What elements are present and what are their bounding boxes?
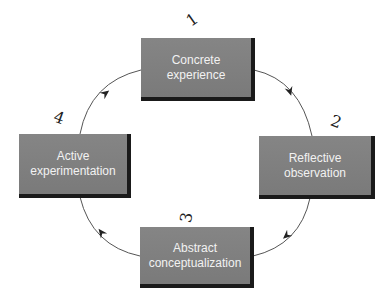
stage-label-line1: Abstract bbox=[173, 241, 217, 256]
stage-label-line1: Active bbox=[57, 149, 90, 164]
stage-label-line1: Reflective bbox=[289, 151, 342, 166]
stage-label-line2: experimentation bbox=[30, 164, 115, 179]
stage-label-line2: experience bbox=[167, 68, 226, 83]
stage-active-experimentation: Active experimentation bbox=[19, 134, 131, 198]
arrow-2-to-3 bbox=[253, 198, 310, 256]
stage-label-line1: Concrete bbox=[172, 53, 221, 68]
arrow-3-to-4 bbox=[80, 197, 140, 256]
stage-abstract-conceptualization: Abstract conceptualization bbox=[140, 227, 254, 288]
arrow-4-to-1 bbox=[80, 70, 141, 134]
stage-label-line2: conceptualization bbox=[149, 256, 242, 271]
learning-cycle-diagram: Concrete experience Reflective observati… bbox=[0, 0, 386, 306]
stage-concrete-experience: Concrete experience bbox=[141, 38, 255, 101]
arrow-1-to-2 bbox=[254, 70, 312, 136]
stage-label-line2: observation bbox=[284, 166, 346, 181]
stage-reflective-observation: Reflective observation bbox=[259, 136, 375, 199]
